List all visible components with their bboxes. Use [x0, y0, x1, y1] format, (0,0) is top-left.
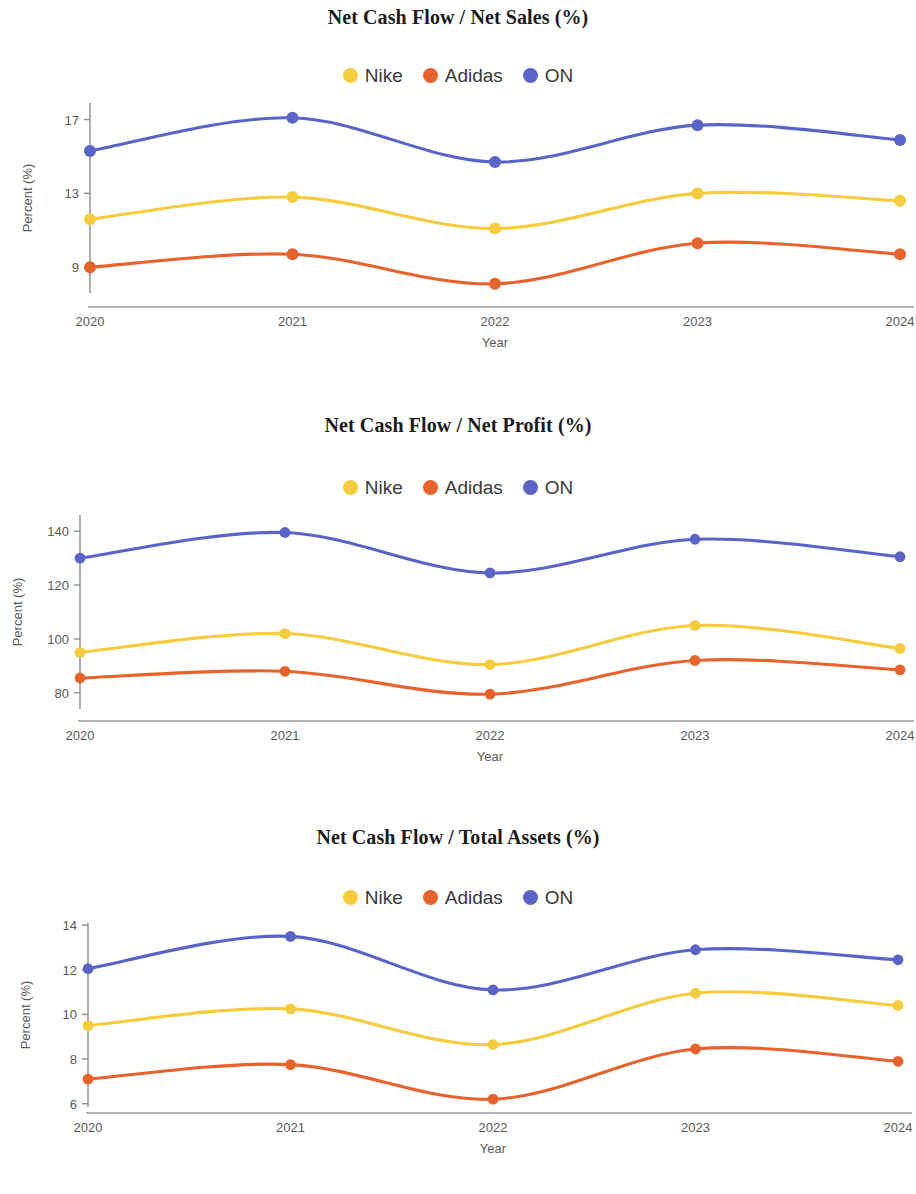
x-axis-tick-label: 2020	[66, 728, 95, 743]
chart-title: Net Cash Flow / Net Profit (%)	[0, 400, 916, 436]
data-point-on-2020	[84, 145, 96, 157]
x-axis-tick-label: 2021	[276, 1120, 305, 1135]
y-axis-title: Percent (%)	[20, 164, 35, 233]
y-axis-tick-label: 14	[63, 918, 77, 933]
data-point-nike-2023	[690, 988, 701, 999]
legend-label-nike: Nike	[365, 66, 403, 85]
data-point-nike-2024	[893, 1000, 904, 1011]
y-axis-tick-label: 140	[47, 524, 69, 539]
data-point-adidas-2022	[489, 278, 501, 290]
data-point-nike-2024	[894, 195, 906, 207]
y-axis-tick-label: 9	[72, 260, 79, 275]
legend-label-nike: Nike	[365, 888, 403, 907]
legend-swatch-nike-icon	[343, 68, 358, 83]
legend-item-nike[interactable]: Nike	[343, 478, 403, 497]
chart-legend: Nike Adidas ON	[0, 888, 916, 907]
legend-label-adidas: Adidas	[445, 66, 503, 85]
data-point-on-2022	[485, 568, 496, 579]
legend-item-on[interactable]: ON	[523, 888, 574, 907]
legend-swatch-adidas-icon	[423, 480, 438, 495]
plot-area-net-profit: 80100120140Percent (%)202020212022202320…	[0, 497, 916, 769]
data-point-on-2022	[489, 156, 501, 168]
data-point-nike-2023	[690, 620, 701, 631]
legend-swatch-on-icon	[523, 890, 538, 905]
chart-legend: Nike Adidas ON	[0, 478, 916, 497]
data-point-on-2022	[488, 985, 499, 996]
legend-swatch-nike-icon	[343, 890, 358, 905]
x-axis-tick-label: 2024	[884, 1120, 913, 1135]
y-axis-tick-label: 13	[65, 186, 79, 201]
x-axis-tick-label: 2020	[76, 314, 105, 329]
series-line-on	[90, 118, 900, 162]
x-axis-tick-label: 2023	[681, 728, 710, 743]
x-axis-title: Year	[480, 1141, 507, 1156]
legend-label-on: ON	[545, 66, 574, 85]
data-point-on-2024	[893, 954, 904, 965]
data-point-on-2023	[690, 944, 701, 955]
line-chart-svg: 91317Percent (%)20202021202220232024Year	[0, 85, 916, 355]
data-point-nike-2021	[287, 191, 299, 203]
data-point-adidas-2024	[895, 665, 906, 676]
chart-legend: Nike Adidas ON	[0, 66, 916, 85]
chart-title: Net Cash Flow / Net Sales (%)	[0, 0, 916, 28]
data-point-on-2021	[285, 931, 296, 942]
legend-item-adidas[interactable]: Adidas	[423, 66, 503, 85]
legend-label-adidas: Adidas	[445, 478, 503, 497]
x-axis-tick-label: 2022	[479, 1120, 508, 1135]
legend-item-on[interactable]: ON	[523, 66, 574, 85]
x-axis-tick-label: 2024	[886, 314, 915, 329]
data-point-adidas-2024	[894, 248, 906, 260]
data-point-adidas-2023	[692, 237, 704, 249]
data-point-nike-2023	[692, 187, 704, 199]
data-point-on-2023	[692, 119, 704, 131]
line-chart-svg: 68101214Percent (%)20202021202220232024Y…	[0, 907, 916, 1162]
series-line-on	[88, 936, 898, 990]
y-axis-tick-label: 8	[70, 1052, 77, 1067]
x-axis-tick-label: 2021	[278, 314, 307, 329]
y-axis-tick-label: 100	[47, 632, 69, 647]
legend-label-nike: Nike	[365, 478, 403, 497]
legend-swatch-adidas-icon	[423, 890, 438, 905]
data-point-on-2024	[894, 134, 906, 146]
data-point-on-2024	[895, 551, 906, 562]
x-axis-tick-label: 2022	[481, 314, 510, 329]
legend-item-nike[interactable]: Nike	[343, 888, 403, 907]
legend-label-adidas: Adidas	[445, 888, 503, 907]
data-point-adidas-2022	[488, 1094, 499, 1105]
legend-swatch-nike-icon	[343, 480, 358, 495]
legend-swatch-adidas-icon	[423, 68, 438, 83]
legend-item-adidas[interactable]: Adidas	[423, 478, 503, 497]
data-point-on-2020	[83, 963, 94, 974]
y-axis-tick-label: 17	[65, 113, 79, 128]
data-point-adidas-2020	[75, 673, 86, 684]
data-point-adidas-2024	[893, 1056, 904, 1067]
y-axis-title: Percent (%)	[18, 981, 33, 1050]
series-line-on	[80, 532, 900, 573]
legend-item-nike[interactable]: Nike	[343, 66, 403, 85]
legend-item-adidas[interactable]: Adidas	[423, 888, 503, 907]
x-axis-tick-label: 2020	[74, 1120, 103, 1135]
y-axis-tick-label: 120	[47, 578, 69, 593]
plot-area-total-assets: 68101214Percent (%)20202021202220232024Y…	[0, 907, 916, 1162]
chart-block-total-assets: Net Cash Flow / Total Assets (%) Nike Ad…	[0, 810, 916, 1194]
data-point-nike-2024	[895, 643, 906, 654]
data-point-nike-2022	[489, 222, 501, 234]
chart-title: Net Cash Flow / Total Assets (%)	[0, 810, 916, 848]
data-point-adidas-2021	[280, 666, 291, 677]
data-point-on-2020	[75, 553, 86, 564]
series-line-adidas	[88, 1048, 898, 1100]
y-axis-tick-label: 80	[55, 686, 69, 701]
charts-page: Net Cash Flow / Net Sales (%) Nike Adida…	[0, 0, 916, 1194]
legend-item-on[interactable]: ON	[523, 478, 574, 497]
data-point-on-2023	[690, 534, 701, 545]
chart-block-net-profit: Net Cash Flow / Net Profit (%) Nike Adid…	[0, 400, 916, 810]
y-axis-tick-label: 12	[63, 963, 77, 978]
data-point-adidas-2023	[690, 655, 701, 666]
series-line-adidas	[90, 242, 900, 284]
data-point-nike-2021	[285, 1003, 296, 1014]
data-point-adidas-2020	[84, 261, 96, 273]
series-line-nike	[88, 992, 898, 1045]
data-point-nike-2021	[280, 628, 291, 639]
series-line-nike	[80, 625, 900, 664]
data-point-nike-2020	[84, 213, 96, 225]
